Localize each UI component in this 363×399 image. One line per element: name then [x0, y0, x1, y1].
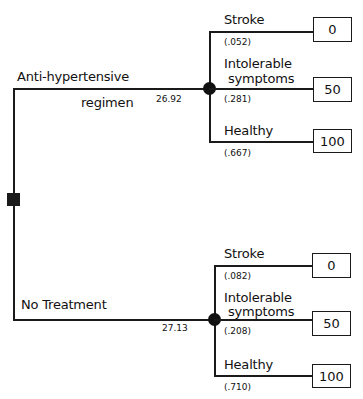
outcome-healthy-probability: (.710): [224, 383, 251, 392]
utility-box-stroke: 0: [313, 17, 352, 42]
branch-antihypertensive-line: [13, 88, 211, 90]
outcome-symptoms-label-cont: symptoms: [228, 72, 294, 85]
outcome-healthy-label: Healthy: [224, 358, 273, 371]
outcome-healthy-label: Healthy: [224, 124, 273, 137]
outcome-symptoms-line: [214, 319, 312, 321]
outcome-healthy-line: [209, 141, 313, 143]
outcome-symptoms-label: Intolerable: [224, 291, 292, 304]
outcome-stroke-label: Stroke: [224, 247, 264, 260]
outcome-healthy-probability: (.667): [224, 149, 251, 158]
expected-value-antihypertensive: 26.92: [156, 95, 182, 104]
outcome-stroke-probability: (.082): [224, 272, 251, 281]
utility-box-stroke: 0: [312, 253, 351, 278]
branch-antihypertensive-label: Anti-hypertensive: [17, 70, 129, 83]
utility-box-healthy: 100: [313, 129, 352, 153]
branch-no-treatment-line: [13, 319, 215, 321]
outcome-stroke-line: [214, 265, 312, 267]
utility-box-healthy: 100: [312, 364, 351, 388]
outcome-symptoms-probability: (.208): [224, 327, 251, 336]
branch-antihypertensive-label-cont: regimen: [81, 96, 133, 109]
decision-square-icon: [7, 193, 20, 206]
outcome-stroke-label: Stroke: [224, 13, 264, 26]
outcome-healthy-line: [214, 375, 312, 377]
utility-box-symptoms: 50: [313, 77, 352, 102]
outcome-symptoms-label: Intolerable: [224, 57, 292, 70]
outcome-symptoms-line: [209, 88, 313, 90]
outcome-stroke-probability: (.052): [224, 38, 251, 47]
outcome-symptoms-label-cont: symptoms: [228, 305, 294, 318]
utility-box-symptoms: 50: [312, 311, 351, 336]
branch-no-treatment-label: No Treatment: [21, 298, 107, 311]
outcome-stroke-line: [209, 31, 313, 33]
outcome-symptoms-probability: (.281): [224, 95, 251, 104]
expected-value-no-treatment: 27.13: [162, 324, 188, 333]
